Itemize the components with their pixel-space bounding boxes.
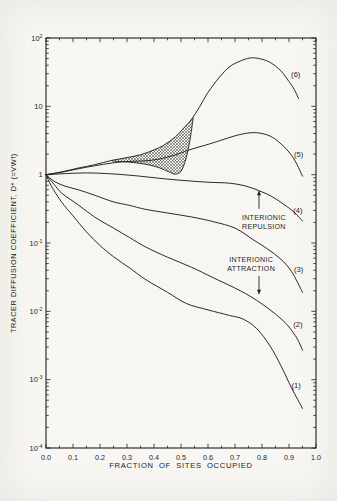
plot-frame — [46, 38, 316, 448]
y-tick-label: 10-1 — [30, 238, 43, 248]
chart-canvas: 0.00.10.20.30.40.50.60.70.80.91.01021011… — [0, 0, 337, 501]
y-tick-label: 10-4 — [30, 443, 43, 453]
x-axis-title: FRACTION OF SITES OCCUPIED — [46, 461, 316, 470]
curve-label-curve-5: (5) — [294, 150, 304, 159]
interionic-attraction-arrow-down-icon — [257, 290, 261, 294]
y-tick-label: 1 — [38, 170, 42, 179]
y-tick-label: 10-2 — [30, 306, 43, 316]
figure-page: 0.00.10.20.30.40.50.60.70.80.91.01021011… — [0, 0, 337, 501]
curve-label-curve-3: (3) — [294, 265, 304, 274]
curve-label-curve-1: (1) — [291, 381, 301, 390]
y-tick-label: 10-3 — [30, 374, 43, 384]
curve-label-curve-2: (2) — [293, 320, 303, 329]
axis-ticks — [46, 38, 316, 448]
curve-label-curve-4: (4) — [293, 206, 303, 215]
y-tick-label: 102 — [31, 33, 42, 43]
curve-label-curve-6: (6) — [291, 70, 301, 79]
y-axis-title: TRACER DIFFUSION COEFFICIENT, D* (=VWf) — [6, 38, 20, 448]
y-tick-label: 10 — [34, 102, 42, 111]
annotation-interionic-attraction-line: ATTRACTION — [227, 265, 275, 273]
annotation-interionic-repulsion-line: INTERIONIC — [242, 214, 286, 222]
annotation-interionic-repulsion-line: REPULSION — [242, 223, 286, 231]
annotation-interionic-attraction-line: INTERIONIC — [229, 256, 273, 264]
